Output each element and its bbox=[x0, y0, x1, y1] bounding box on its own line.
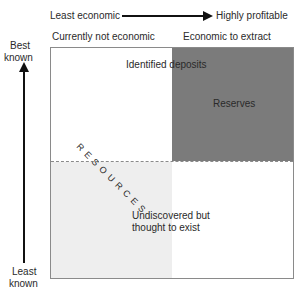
identified-deposits-label: Identified deposits bbox=[126, 59, 207, 71]
resource-classification-box bbox=[50, 47, 294, 279]
column-header-economic: Economic to extract bbox=[183, 31, 271, 43]
reserves-label: Reserves bbox=[213, 98, 255, 110]
undiscovered-label-line1: Undiscovered but bbox=[132, 210, 210, 222]
undiscovered-label-line2: thought to exist bbox=[132, 222, 200, 234]
column-header-not-economic: Currently not economic bbox=[52, 31, 155, 43]
least-known-label-line2: known bbox=[9, 278, 38, 290]
best-known-label-line1: Best bbox=[10, 40, 30, 52]
economic-axis-arrow-line bbox=[122, 15, 204, 17]
highly-profitable-label: Highly profitable bbox=[216, 10, 288, 22]
least-economic-label: Least economic bbox=[50, 10, 120, 22]
knowledge-axis-arrow-line bbox=[23, 70, 25, 263]
least-known-label-line1: Least bbox=[12, 266, 36, 278]
arrow-right-icon bbox=[203, 11, 213, 21]
